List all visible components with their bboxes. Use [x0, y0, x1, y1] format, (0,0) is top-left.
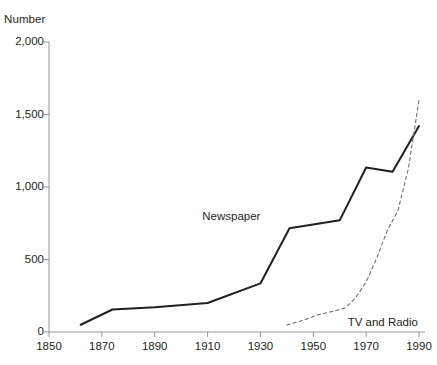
- plot-area: [0, 0, 437, 365]
- y-axis-ticks: [44, 42, 49, 332]
- x-tick-label: 1970: [353, 340, 379, 352]
- x-tick-label: 1990: [406, 340, 432, 352]
- x-tick-label: 1910: [195, 340, 221, 352]
- x-tick-label: 1890: [142, 340, 168, 352]
- chart-container: Number 05001,0001,5002,000 1850187018901…: [0, 0, 437, 365]
- x-tick-label: 1870: [89, 340, 115, 352]
- series-label-tv-and-radio: TV and Radio: [348, 316, 418, 328]
- series-line-newspaper: [81, 126, 419, 325]
- axis-lines: [49, 42, 425, 332]
- series-label-newspaper: Newspaper: [202, 210, 260, 222]
- x-tick-label: 1930: [248, 340, 274, 352]
- x-axis-ticks: [49, 332, 419, 337]
- series-line-tv-and-radio: [287, 100, 419, 325]
- x-tick-label: 1850: [36, 340, 62, 352]
- x-tick-label: 1950: [300, 340, 326, 352]
